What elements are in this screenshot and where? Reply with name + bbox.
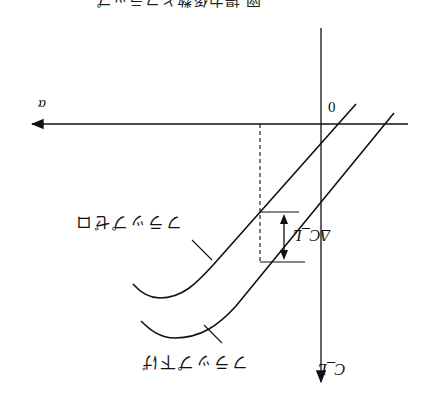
flap-down-label: フラップ下げ <box>140 352 248 376</box>
flap-zero-leader <box>192 240 212 260</box>
flap-down-leader <box>204 325 222 343</box>
origin-label: 0 <box>328 98 336 115</box>
delta-arrow <box>280 214 288 260</box>
cl-axis-label: C_L <box>318 360 346 378</box>
lift-curve-diagram <box>0 0 425 402</box>
delta-cl-label: ΔC_L <box>293 226 330 244</box>
alpha-axis-label: α <box>38 96 46 113</box>
flap-zero-label: フラップゼロ <box>74 212 182 236</box>
